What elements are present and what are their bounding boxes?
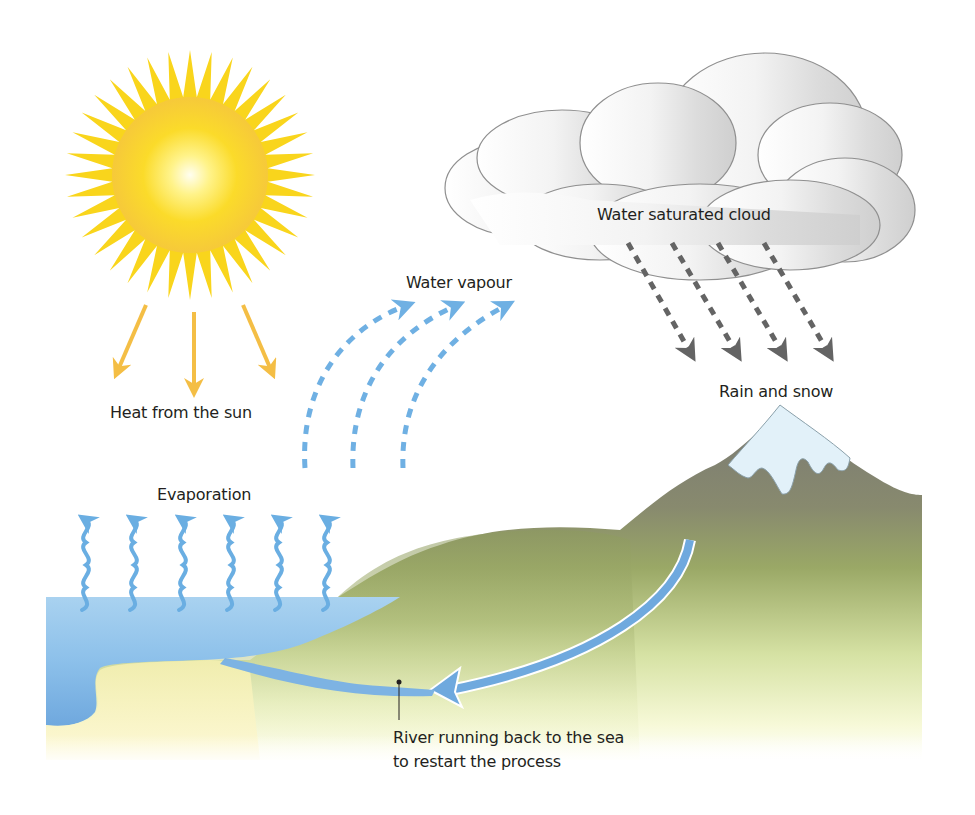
river-label-line1: River running back to the sea <box>393 727 624 749</box>
heat-label: Heat from the sun <box>110 402 252 424</box>
heat-arrows <box>118 305 271 388</box>
river-label-line2: to restart the process <box>393 751 561 773</box>
cloud-label: Water saturated cloud <box>597 204 771 226</box>
vapour-label: Water vapour <box>406 272 512 294</box>
cloud-icon <box>445 53 915 280</box>
vapour-arrows <box>305 306 505 468</box>
evaporation-arrows <box>82 520 330 610</box>
evaporation-label: Evaporation <box>157 484 251 506</box>
rain-label: Rain and snow <box>719 381 833 403</box>
sun-icon <box>65 50 315 300</box>
